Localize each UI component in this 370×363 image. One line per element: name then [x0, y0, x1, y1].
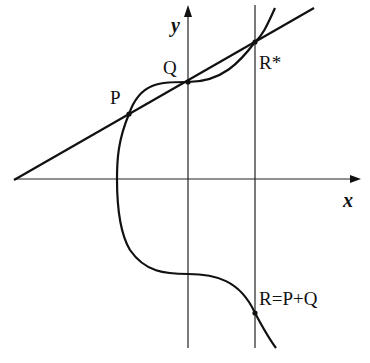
label-r-star: R*: [259, 52, 281, 73]
elliptic-curve-diagram: y x Q P R* R=P+Q: [0, 0, 370, 363]
label-p: P: [110, 87, 121, 108]
point-q: [185, 79, 190, 84]
label-q: Q: [163, 57, 177, 78]
y-axis-label: y: [169, 14, 180, 37]
secant-line: [14, 8, 314, 180]
x-axis-label: x: [342, 189, 353, 211]
point-p: [126, 111, 131, 116]
point-r-star: [252, 39, 257, 44]
y-axis-arrow-icon: [184, 5, 192, 17]
point-r: [252, 310, 257, 315]
y-axis: [184, 5, 192, 348]
elliptic-curve: [117, 8, 276, 348]
x-axis-arrow-icon: [350, 175, 361, 183]
label-r: R=P+Q: [259, 288, 318, 309]
